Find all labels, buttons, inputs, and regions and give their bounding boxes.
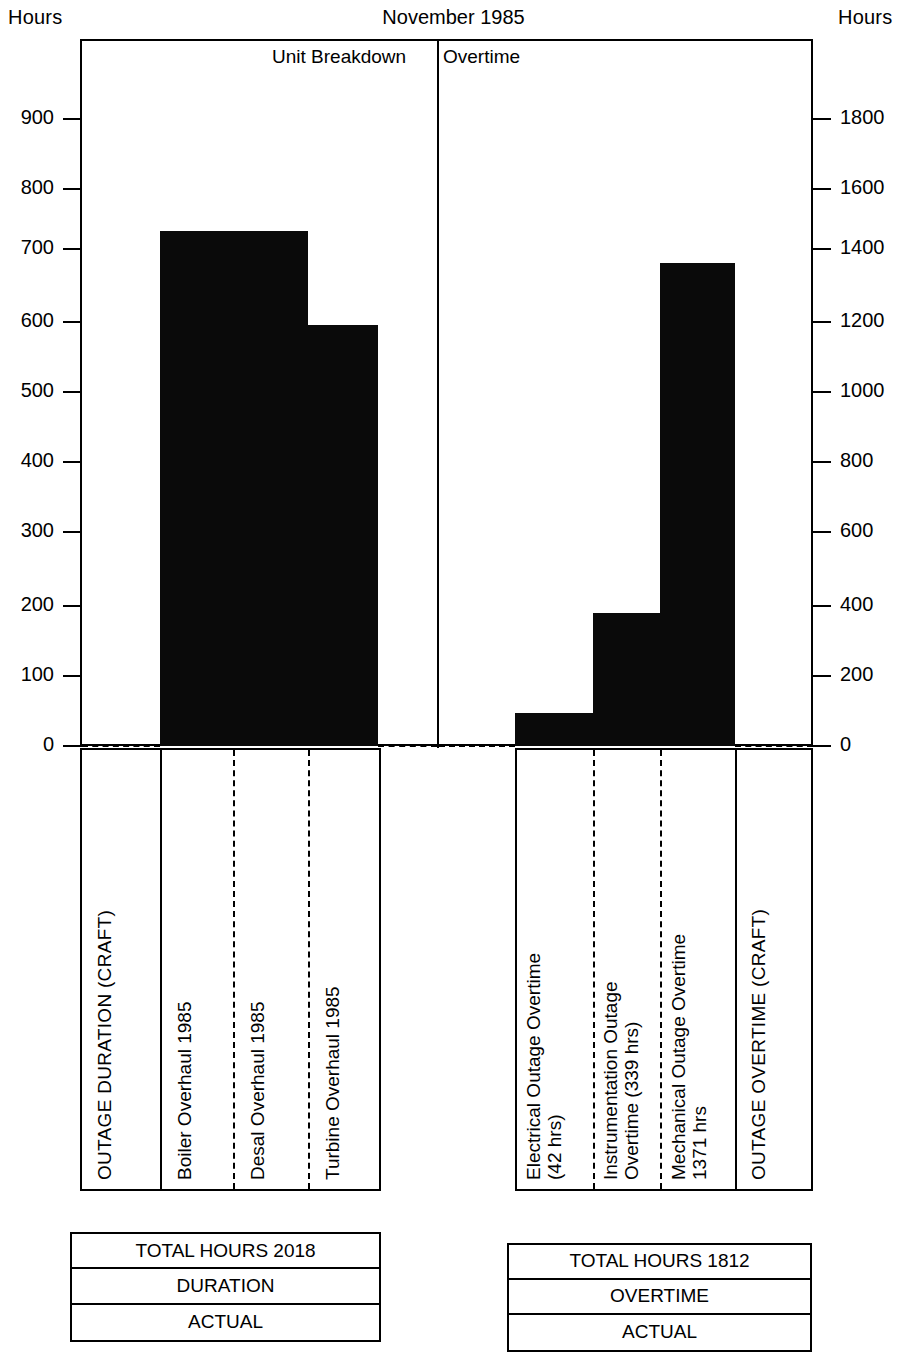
left-tick-label-900: 900	[21, 106, 54, 129]
baseline-dash-middle	[378, 745, 437, 749]
right-tick-800	[812, 461, 831, 463]
summary-type-duration: DURATION	[72, 1269, 379, 1304]
left-tick-500	[63, 391, 82, 393]
category-label-mechanical-outage-overtime: Mechanical Outage Overtime 1371 hrs	[668, 920, 711, 1180]
right-tick-label-400: 400	[840, 593, 873, 616]
right-tick-label-0: 0	[840, 733, 851, 756]
baseline-dash-right	[439, 745, 515, 749]
left-tick-100	[63, 675, 82, 677]
left-tick-label-200: 200	[21, 593, 54, 616]
left-tick-label-500: 500	[21, 379, 54, 402]
chart-page: Hours November 1985 Hours Unit Breakdown…	[0, 0, 907, 1352]
page-title: November 1985	[0, 6, 907, 29]
summary-box-duration: TOTAL HOURS 2018 DURATION ACTUAL	[70, 1232, 381, 1342]
left-tick-label-800: 800	[21, 176, 54, 199]
category-label-outage-duration-craft: OUTAGE DURATION (CRAFT)	[94, 900, 115, 1180]
panel-divider	[437, 39, 439, 748]
right-tick-1000	[812, 391, 831, 393]
category-sep-right-3	[735, 750, 737, 1189]
right-tick-1800	[812, 118, 831, 120]
summary-box-overtime: TOTAL HOURS 1812 OVERTIME ACTUAL	[507, 1243, 812, 1352]
right-tick-label-1000: 1000	[840, 379, 885, 402]
left-tick-900	[63, 118, 82, 120]
left-tick-0	[63, 745, 82, 747]
bar-turbine-overhaul	[308, 325, 378, 746]
summary-total-hours-overtime: TOTAL HOURS 1812	[509, 1245, 810, 1280]
right-tick-label-1600: 1600	[840, 176, 885, 199]
right-tick-label-1200: 1200	[840, 309, 885, 332]
left-tick-label-700: 700	[21, 236, 54, 259]
category-label-outage-overtime-craft: OUTAGE OVERTIME (CRAFT)	[748, 900, 769, 1180]
right-tick-label-1400: 1400	[840, 236, 885, 259]
left-tick-300	[63, 531, 82, 533]
summary-type-overtime: OVERTIME	[509, 1280, 810, 1315]
left-tick-700	[63, 248, 82, 250]
right-axis-unit-label: Hours	[838, 6, 892, 29]
right-tick-label-600: 600	[840, 519, 873, 542]
right-tick-0	[812, 745, 831, 747]
summary-basis-overtime: ACTUAL	[509, 1315, 810, 1350]
category-sep-right-1	[593, 750, 595, 1189]
category-sep-left-3	[308, 750, 310, 1189]
right-tick-label-800: 800	[840, 449, 873, 472]
left-tick-800	[63, 188, 82, 190]
category-label-electrical-outage-overtime: Electrical Outage Overtime (42 hrs)	[523, 920, 566, 1180]
left-tick-label-400: 400	[21, 449, 54, 472]
left-tick-400	[63, 461, 82, 463]
right-tick-1200	[812, 321, 831, 323]
right-tick-label-200: 200	[840, 663, 873, 686]
right-tick-1600	[812, 188, 831, 190]
summary-total-hours-duration: TOTAL HOURS 2018	[72, 1234, 379, 1269]
section-label-unit-breakdown: Unit Breakdown	[272, 46, 406, 68]
right-tick-600	[812, 531, 831, 533]
bar-instrumentation-outage-overtime	[593, 613, 660, 746]
bar-electrical-outage-overtime	[515, 713, 593, 746]
category-label-desal-overhaul: Desal Overhaul 1985	[247, 930, 268, 1180]
left-tick-label-600: 600	[21, 309, 54, 332]
right-tick-1400	[812, 248, 831, 250]
right-tick-label-1800: 1800	[840, 106, 885, 129]
left-tick-200	[63, 605, 82, 607]
right-tick-200	[812, 675, 831, 677]
left-tick-600	[63, 321, 82, 323]
bar-boiler-desal-overhaul	[160, 231, 308, 746]
bar-mechanical-outage-overtime	[660, 263, 735, 746]
left-tick-label-0: 0	[43, 733, 54, 756]
category-sep-right-2	[660, 750, 662, 1189]
left-tick-label-100: 100	[21, 663, 54, 686]
category-sep-left-2	[233, 750, 235, 1189]
summary-basis-duration: ACTUAL	[72, 1305, 379, 1340]
category-label-instrumentation-outage-overtime: Instrumentation Outage Overtime (339 hrs…	[600, 940, 643, 1180]
left-tick-label-300: 300	[21, 519, 54, 542]
section-label-overtime: Overtime	[443, 46, 520, 68]
category-label-boiler-overhaul: Boiler Overhaul 1985	[174, 930, 195, 1180]
category-label-turbine-overhaul: Turbine Overhaul 1985	[322, 930, 343, 1180]
category-sep-left-1	[160, 750, 162, 1189]
right-tick-400	[812, 605, 831, 607]
